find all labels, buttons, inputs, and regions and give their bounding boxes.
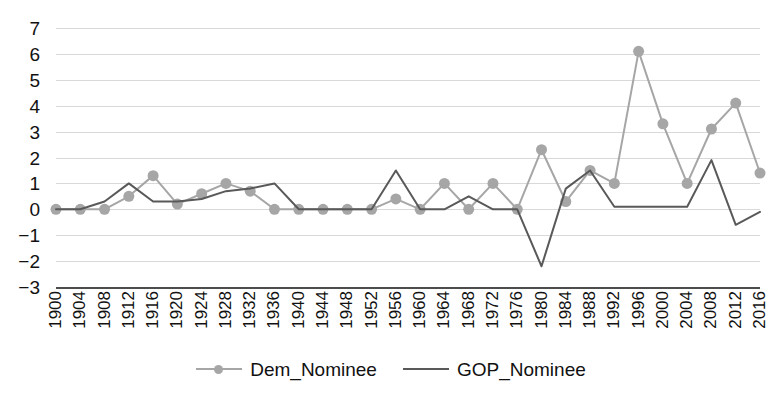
y-axis-tick-label: 1	[29, 174, 40, 193]
series-lines	[56, 28, 760, 287]
x-axis-tick-label: 1924	[193, 291, 210, 329]
x-axis-tick-label: 1904	[71, 291, 88, 329]
x-axis-tick-label: 1932	[241, 291, 258, 329]
x-axis-tick-label: 1936	[265, 291, 282, 329]
x-axis-tick-label: 1972	[484, 291, 501, 329]
y-axis-tick-label: 3	[29, 123, 40, 142]
x-axis-tick-label: 2004	[678, 291, 695, 329]
y-axis-tick-label: 6	[29, 45, 40, 64]
y-axis-tick-label: −1	[18, 226, 40, 245]
data-point-marker	[439, 178, 450, 189]
series-line-dem_nominee	[56, 51, 760, 209]
x-axis-tick-label: 1944	[314, 291, 331, 329]
data-point-marker	[657, 118, 668, 129]
data-point-marker	[730, 98, 741, 109]
data-point-marker	[682, 178, 693, 189]
x-axis-tick-label: 1992	[605, 291, 622, 329]
data-point-marker	[536, 144, 547, 155]
data-point-marker	[463, 204, 474, 215]
x-axis-tick-label: 1908	[96, 291, 113, 329]
y-axis-tick-label: 7	[29, 19, 40, 38]
y-axis-tick-label: 0	[29, 200, 40, 219]
data-point-marker	[755, 168, 766, 179]
y-axis-tick-label: −2	[18, 252, 40, 271]
x-axis-tick-label: 1928	[217, 291, 234, 329]
x-axis-tick-label: 1956	[387, 291, 404, 329]
x-axis-tick-label: 1988	[581, 291, 598, 329]
y-axis-tick-label: −3	[18, 278, 40, 297]
data-point-marker	[99, 204, 110, 215]
x-axis-tick-label: 1960	[411, 291, 428, 329]
legend-item-dem[interactable]: Dem_Nominee	[196, 360, 377, 379]
legend-swatch-dem-icon	[196, 362, 242, 376]
x-axis-line	[56, 287, 760, 289]
x-axis-tick-label: 1976	[508, 291, 525, 329]
data-point-marker	[390, 193, 401, 204]
data-point-marker	[123, 191, 134, 202]
x-axis-tick-label: 1940	[290, 291, 307, 329]
x-axis-tick-label: 1980	[533, 291, 550, 329]
x-axis-tick-label: 2000	[654, 291, 671, 329]
legend-item-gop[interactable]: GOP_Nominee	[403, 360, 586, 379]
x-axis-tick-label: 2012	[727, 291, 744, 329]
x-axis-tick-label: 1968	[460, 291, 477, 329]
y-axis-tick-label: 2	[29, 149, 40, 168]
x-axis-tick-label: 1912	[120, 291, 137, 329]
y-axis-tick-label: 5	[29, 71, 40, 90]
y-axis-tick-label: 4	[29, 97, 40, 116]
data-point-marker	[706, 124, 717, 135]
legend-swatch-gop-icon	[403, 362, 449, 376]
legend-label-gop: GOP_Nominee	[457, 360, 586, 379]
data-point-marker	[269, 204, 280, 215]
x-axis-tick-label: 1920	[168, 291, 185, 329]
x-axis-tick-label: 1964	[435, 291, 452, 329]
x-axis-tick-label: 1900	[47, 291, 64, 329]
chart-container: 76543210−1−2−3 1900190419081912191619201…	[0, 0, 782, 398]
y-axis: 76543210−1−2−3	[0, 0, 50, 398]
chart-legend: Dem_Nominee GOP_Nominee	[0, 352, 782, 386]
x-axis-tick-label: 1996	[630, 291, 647, 329]
x-axis-tick-label: 2008	[702, 291, 719, 329]
plot-area	[56, 28, 760, 287]
data-point-marker	[148, 170, 159, 181]
x-axis-tick-label: 1952	[363, 291, 380, 329]
data-point-marker	[220, 178, 231, 189]
x-axis-tick-label: 1984	[557, 291, 574, 329]
x-axis-tick-label: 1948	[338, 291, 355, 329]
x-axis-tick-label: 1916	[144, 291, 161, 329]
series-line-gop_nominee	[56, 160, 760, 266]
data-point-marker	[609, 178, 620, 189]
x-axis-tick-label: 2016	[751, 291, 768, 329]
legend-label-dem: Dem_Nominee	[250, 360, 377, 379]
data-point-marker	[633, 46, 644, 57]
data-point-marker	[487, 178, 498, 189]
